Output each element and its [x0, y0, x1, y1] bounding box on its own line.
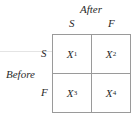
cell-sub: 2: [113, 50, 117, 58]
cell-sub: 3: [74, 89, 78, 97]
cell-sub: 4: [113, 89, 117, 97]
column-header-s: S: [69, 18, 75, 29]
cell-sub: 1: [74, 50, 78, 58]
contingency-table: X1 X2 X3 X4: [52, 34, 131, 113]
cell-var: X: [106, 48, 113, 60]
column-header-f: F: [108, 18, 115, 29]
cell-x4: X4: [92, 74, 130, 112]
cell-x3: X3: [53, 74, 92, 112]
column-title: After: [80, 4, 102, 15]
cell-x2: X2: [92, 35, 130, 74]
cell-var: X: [67, 48, 74, 60]
cell-var: X: [106, 87, 113, 99]
row-title: Before: [6, 69, 35, 80]
cell-var: X: [67, 87, 74, 99]
row-header-s: S: [41, 48, 47, 59]
row-header-f: F: [41, 87, 48, 98]
cell-x1: X1: [53, 35, 92, 74]
